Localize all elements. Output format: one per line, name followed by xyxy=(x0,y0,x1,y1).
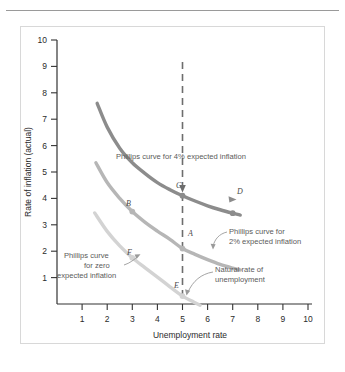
y-tick-label-5: 5 xyxy=(42,167,47,177)
x-axis: 1 2 3 4 5 6 7 8 9 10 Unemployment rate xyxy=(57,304,313,340)
leader-arrow-2-percent-icon xyxy=(211,244,216,250)
annotation-zero-curve-line1: Phillips curve xyxy=(64,251,109,260)
point-label-c: C xyxy=(176,181,182,190)
data-point-a xyxy=(180,246,186,252)
leader-line-natural-rate xyxy=(188,272,213,292)
x-axis-title: Unemployment rate xyxy=(153,330,227,340)
point-label-a: A xyxy=(187,229,193,238)
annotations: Phillips curve for 4% expected inflation… xyxy=(57,152,301,296)
y-tick-label-4: 4 xyxy=(42,193,47,203)
point-label-f: F xyxy=(126,248,132,257)
y-tick-label-6: 6 xyxy=(42,141,47,151)
y-tick-label-8: 8 xyxy=(42,88,47,98)
x-tick-label-10: 10 xyxy=(303,314,313,324)
figure-container: 1 2 3 4 5 6 7 8 9 10 Rate of inflation (… xyxy=(0,0,345,372)
y-tick-label-3: 3 xyxy=(42,220,47,230)
x-tick-label-6: 6 xyxy=(205,314,210,324)
x-tick-label-5: 5 xyxy=(180,314,185,324)
curve-zero-expected-inflation xyxy=(95,213,200,305)
data-point-d xyxy=(230,210,236,216)
annotation-2-percent-curve-line1: Phillips curve for xyxy=(229,227,285,236)
x-tick-label-2: 2 xyxy=(105,314,110,324)
x-tick-label-1: 1 xyxy=(80,314,85,324)
x-tick-label-8: 8 xyxy=(255,314,260,324)
annotation-zero-curve-line2: for zero xyxy=(84,261,110,270)
x-tick-label-7: 7 xyxy=(230,314,235,324)
data-point-c xyxy=(180,193,186,199)
x-tick-label-4: 4 xyxy=(155,314,160,324)
curve-2-percent-expected-inflation xyxy=(96,163,240,270)
y-tick-label-7: 7 xyxy=(42,114,47,124)
annotation-zero-curve-line3: expected inflation xyxy=(57,271,116,280)
y-tick-label-1: 1 xyxy=(42,273,47,283)
data-point-b xyxy=(129,209,135,215)
x-tick-label-3: 3 xyxy=(130,314,135,324)
phillips-curve-chart: 1 2 3 4 5 6 7 8 9 10 Rate of inflation (… xyxy=(0,0,345,372)
arrowhead-d-icon xyxy=(229,196,237,202)
y-tick-label-9: 9 xyxy=(42,61,47,71)
annotation-natural-rate-line2: unemployment xyxy=(215,275,266,284)
point-label-e: E xyxy=(173,281,179,290)
point-label-b: B xyxy=(126,199,131,208)
x-tick-label-9: 9 xyxy=(281,314,286,324)
annotation-2-percent-curve-line2: 2% expected inflation xyxy=(229,237,301,246)
leader-arrow-natural-rate-icon xyxy=(185,289,190,295)
y-tick-label-2: 2 xyxy=(42,246,47,256)
y-tick-label-10: 10 xyxy=(38,35,48,45)
y-axis-title: Rate of inflation (actual) xyxy=(23,127,33,217)
point-label-d: D xyxy=(236,187,243,196)
annotation-4-percent-curve: Phillips curve for 4% expected inflation xyxy=(116,152,246,161)
leader-line-2-percent xyxy=(213,232,227,246)
annotation-natural-rate-line1: Natural rate of xyxy=(215,265,264,274)
y-axis: 1 2 3 4 5 6 7 8 9 10 Rate of inflation (… xyxy=(23,35,57,304)
data-point-e xyxy=(180,293,186,299)
